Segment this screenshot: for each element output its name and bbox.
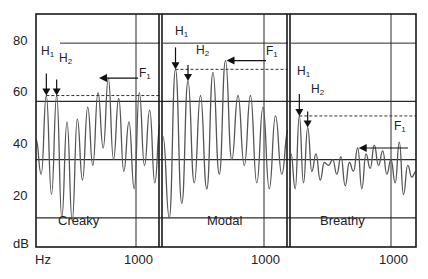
h2-arrow-icon-creaky [53, 89, 61, 96]
panel-label-breathy: Breathy [320, 213, 365, 228]
y-tick-60: 60 [13, 84, 27, 99]
h2-arrow-icon-modal [184, 74, 192, 81]
trace-modal [163, 61, 288, 218]
spectra-chart: 80 60 40 20 dB Hz 1000 1000 1000 Creaky … [0, 0, 428, 279]
spectrum-traces [36, 61, 416, 221]
h1-arrow-icon-modal [172, 62, 180, 69]
x-tick-creaky-1000: 1000 [124, 252, 153, 267]
creaky-annotations: H1 H2 F1 [41, 44, 151, 81]
h1-arrow-icon-creaky [42, 89, 50, 96]
modal-annotations: H1 H2 F1 [175, 24, 278, 59]
x-tick-breathy-1000: 1000 [379, 252, 408, 267]
breathy-annotations: H1 H2 F1 [297, 64, 406, 134]
y-tick-40: 40 [13, 136, 27, 151]
modal-f1-label: F1 [266, 44, 278, 59]
creaky-h2-label: H2 [59, 51, 73, 66]
modal-h2-label: H2 [196, 43, 210, 58]
x-tick-modal-1000: 1000 [251, 252, 280, 267]
f1-arrow-icon-modal [227, 57, 235, 65]
y-axis-unit: dB [13, 236, 29, 251]
h1-arrow-icon-breathy [295, 109, 303, 116]
h2-arrow-icon-breathy [304, 121, 312, 128]
modal-h1-label: H1 [175, 24, 189, 39]
panel-label-modal: Modal [207, 213, 243, 228]
creaky-f1-label: F1 [139, 66, 151, 81]
x-axis-unit: Hz [35, 252, 51, 267]
panel-label-creaky: Creaky [58, 213, 100, 228]
y-tick-80: 80 [13, 33, 27, 48]
creaky-h1-label: H1 [41, 44, 55, 59]
breathy-h1-label: H1 [297, 64, 311, 79]
breathy-f1-label: F1 [394, 119, 406, 134]
y-tick-20: 20 [13, 188, 27, 203]
trace-creaky [36, 78, 160, 221]
f1-arrow-icon-breathy [359, 144, 367, 152]
f1-arrow-icon-creaky [99, 74, 107, 82]
breathy-h2-label: H2 [311, 82, 325, 97]
